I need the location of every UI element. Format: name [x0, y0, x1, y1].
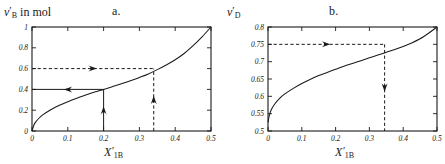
y-tick-label-a-2: 0.4 — [19, 85, 29, 94]
x-tick-label-b-4: 0.4 — [399, 134, 409, 143]
x-tick-label-b-0: 0 — [266, 134, 270, 143]
y-tick-label-b-5: 0.75 — [251, 40, 264, 49]
y-tick-label-b-0: 0.5 — [255, 127, 265, 136]
x-axis-subscript-b: 1B — [345, 151, 354, 160]
plot-svg-a: 0 0.2 0.4 0.6 0.8 1 0 0.1 0.2 0.3 0.4 0.… — [0, 0, 222, 164]
y-tick-label-b-6: 0.8 — [255, 23, 265, 32]
x-axis-label-b: X′1B — [335, 144, 354, 160]
x-tick-label-a-3: 0.3 — [135, 134, 145, 143]
x-tick-marks-a — [32, 27, 211, 131]
x-axis-label-a: X′1B — [104, 144, 123, 160]
data-curve-b — [268, 27, 437, 122]
data-curve-a — [32, 27, 211, 131]
x-tick-label-a-0: 0 — [30, 134, 34, 143]
y-tick-marks-a — [32, 27, 211, 131]
annotations-a — [32, 66, 157, 131]
x-tick-label-a-2: 0.2 — [99, 134, 109, 143]
figure-container: ν′B in mol a. — [0, 0, 445, 164]
annotation-arrowhead-3 — [151, 96, 157, 105]
x-axis-subscript-a: 1B — [114, 151, 123, 160]
y-tick-label-b-2: 0.6 — [255, 92, 265, 101]
y-tick-label-a-1: 0.2 — [19, 106, 29, 115]
y-tick-label-a-5: 1 — [24, 23, 28, 32]
x-tick-label-b-5: 0.5 — [432, 134, 442, 143]
x-tick-label-a-1: 0.1 — [63, 134, 72, 143]
y-tick-label-a-4: 0.8 — [19, 43, 29, 52]
plot-frame-a — [32, 27, 211, 131]
y-tick-label-a-0: 0 — [24, 127, 28, 136]
chart-panel-b: ν′D b. 0.5 — [223, 0, 445, 164]
annotations-b — [268, 41, 388, 131]
x-tick-label-b-3: 0.3 — [365, 134, 375, 143]
x-tick-label-b-1: 0.1 — [297, 134, 306, 143]
y-tick-label-b-3: 0.65 — [251, 75, 264, 84]
x-tick-label-a-4: 0.4 — [171, 134, 181, 143]
annotation-arrowhead-0 — [322, 41, 331, 47]
plot-svg-b: 0.5 0.55 0.6 0.65 0.7 0.75 0.8 0 0.1 0.2… — [223, 0, 445, 164]
chart-panel-a: ν′B in mol a. — [0, 0, 222, 164]
y-tick-label-b-4: 0.7 — [255, 57, 265, 66]
y-tick-label-a-3: 0.6 — [19, 64, 29, 73]
x-tick-label-a-5: 0.5 — [206, 134, 216, 143]
y-tick-label-b-1: 0.55 — [251, 109, 264, 118]
x-tick-label-b-2: 0.2 — [331, 134, 341, 143]
